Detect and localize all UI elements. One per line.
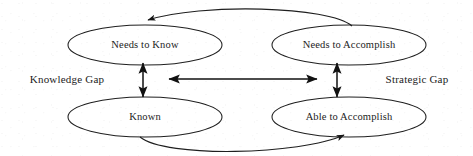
node-label-needs-to-know: Needs to Know (111, 39, 179, 50)
diagram-canvas: Needs to Know Needs to Accomplish Known … (0, 0, 473, 156)
side-label-knowledge-gap: Knowledge Gap (30, 73, 105, 85)
side-label-strategic-gap: Strategic Gap (386, 73, 449, 85)
node-label-needs-to-accomplish: Needs to Accomplish (303, 39, 396, 50)
node-needs-to-accomplish[interactable]: Needs to Accomplish (272, 25, 426, 65)
node-able-to-accomplish[interactable]: Able to Accomplish (272, 97, 426, 137)
node-label-known: Known (129, 111, 161, 122)
node-needs-to-know[interactable]: Needs to Know (68, 25, 222, 65)
top-feedback-curve (148, 9, 352, 26)
bottom-feedback-curve (140, 135, 344, 151)
node-label-able-to-accomplish: Able to Accomplish (306, 111, 393, 122)
diagram-svg: Needs to Know Needs to Accomplish Known … (0, 0, 473, 156)
node-known[interactable]: Known (68, 97, 222, 137)
